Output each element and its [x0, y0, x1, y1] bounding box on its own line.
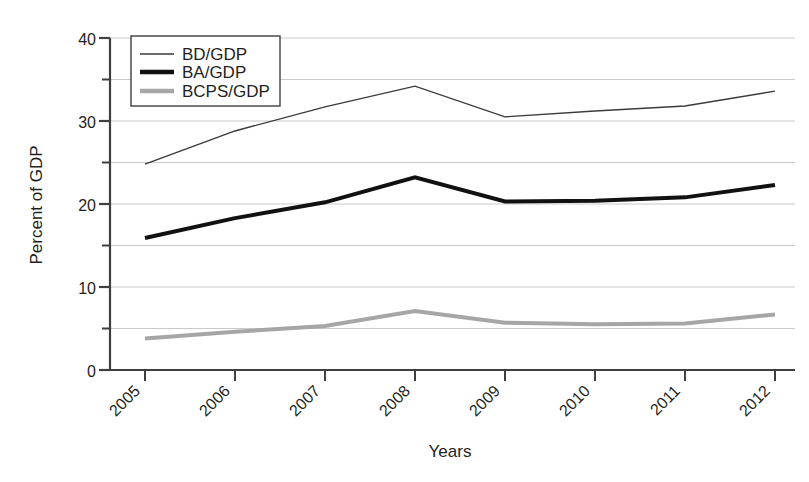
y-tick-label-30: 30 [78, 114, 96, 131]
chart-container: 40 30 20 10 0 20052006200720082009201020… [0, 0, 809, 482]
legend-label-bd: BD/GDP [182, 45, 247, 64]
y-tick-label-0: 0 [87, 363, 96, 380]
legend-label-ba: BA/GDP [182, 63, 246, 82]
legend-label-bcps: BCPS/GDP [182, 82, 270, 101]
line-chart: 40 30 20 10 0 20052006200720082009201020… [0, 0, 809, 482]
y-axis-title: Percent of GDP [27, 145, 46, 264]
y-tick-label-10: 10 [78, 280, 96, 297]
y-tick-label-20: 20 [78, 197, 96, 214]
chart-legend: BD/GDP BA/GDP BCPS/GDP [131, 36, 280, 106]
x-axis-title: Years [429, 442, 472, 461]
y-tick-label-40: 40 [78, 31, 96, 48]
